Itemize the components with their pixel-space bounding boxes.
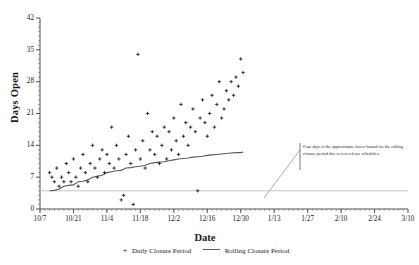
scatter-point (77, 185, 80, 188)
scatter-point (196, 189, 199, 192)
scatter-point (146, 112, 149, 115)
scatter-point (241, 71, 244, 74)
scatter-point (182, 135, 185, 138)
scatter-point (165, 157, 168, 160)
scatter-point (81, 153, 84, 156)
scatter-point (148, 148, 151, 151)
scatter-point (93, 166, 96, 169)
scatter-point (105, 153, 108, 156)
scatter-point (48, 171, 51, 174)
scatter-point (67, 171, 70, 174)
scatter-point (139, 157, 142, 160)
scatter-point (213, 125, 216, 128)
scatter-point (60, 175, 63, 178)
scatter-point (131, 203, 134, 206)
scatter-point (91, 144, 94, 147)
scatter-point (151, 130, 154, 133)
y-tick-label-1: 7 (12, 173, 34, 181)
scatter-point (155, 135, 158, 138)
y-tick-label-5: 35 (12, 46, 34, 54)
scatter-point (143, 166, 146, 169)
y-axis-title: Days Open (9, 58, 20, 138)
scatter-point (167, 130, 170, 133)
scatter-point (210, 94, 213, 97)
scatter-point (112, 166, 115, 169)
scatter-point (237, 85, 240, 88)
scatter-point (84, 171, 87, 174)
scatter-point (229, 80, 232, 83)
x-axis-ticks (40, 209, 408, 213)
scatter-point (170, 148, 173, 151)
scatter-point (160, 144, 163, 147)
scatter-point (203, 121, 206, 124)
scatter-point (55, 166, 58, 169)
x-axis-title: Date (150, 232, 260, 243)
scatter-point (74, 175, 77, 178)
scatter-point (198, 116, 201, 119)
scatter-point (191, 107, 194, 110)
scatter-point (194, 130, 197, 133)
scatter-point (186, 144, 189, 147)
chart-axes (36, 18, 408, 213)
scatter-point (220, 116, 223, 119)
scatter-point (225, 89, 228, 92)
y-tick-label-2: 14 (12, 141, 34, 149)
legend-label-rolling: Rolling Closure Period (225, 247, 290, 255)
scatter-point (98, 157, 101, 160)
scatter-point (100, 148, 103, 151)
scatter-point (57, 185, 60, 188)
y-tick-label-0: 0 (12, 205, 34, 213)
scatter-point (222, 107, 225, 110)
scatter-point (120, 198, 123, 201)
scatter-point (129, 162, 132, 165)
scatter-point (175, 139, 178, 142)
scatter-point (50, 175, 53, 178)
y-axis-ticks (36, 18, 40, 209)
scatter-point (189, 125, 192, 128)
scatter-point (110, 125, 113, 128)
scatter-point (124, 153, 127, 156)
scatter-point (215, 103, 218, 106)
legend-label-daily: Daily Closure Period (132, 247, 191, 255)
scatter-point (239, 57, 242, 60)
scatter-point (163, 125, 166, 128)
scatter-point (218, 80, 221, 83)
scatter-point (232, 94, 235, 97)
scatter-point (69, 180, 72, 183)
scatter-point (234, 75, 237, 78)
scatter-point (141, 139, 144, 142)
legend-marker-daily: + (123, 246, 131, 255)
scatter-point (72, 157, 75, 160)
scatter-point (79, 166, 82, 169)
annotation-text: Four days is the approximate lower-bound… (303, 143, 404, 158)
daily-closure-scatter (48, 53, 245, 206)
scatter-point (136, 53, 139, 56)
scatter-point (179, 103, 182, 106)
scatter-point (208, 112, 211, 115)
scatter-point (115, 144, 118, 147)
chart-legend: + Daily Closure Period Rolling Closure P… (0, 246, 412, 255)
scatter-point (65, 162, 68, 165)
scatter-point (62, 180, 65, 183)
scatter-point (88, 162, 91, 165)
scatter-point (201, 98, 204, 101)
scatter-point (153, 153, 156, 156)
scatter-point (184, 121, 187, 124)
legend-marker-rolling (203, 249, 220, 250)
scatter-point (108, 162, 111, 165)
scatter-point (134, 148, 137, 151)
scatter-point (227, 98, 230, 101)
scatter-point (206, 135, 209, 138)
scatter-point (177, 153, 180, 156)
scatter-point (122, 194, 125, 197)
scatter-point (53, 180, 56, 183)
scatter-point (127, 135, 130, 138)
scatter-point (117, 157, 120, 160)
y-tick-label-6: 42 (12, 14, 34, 22)
scatter-point (172, 116, 175, 119)
x-tick-label-11: 3/10 (388, 215, 419, 223)
